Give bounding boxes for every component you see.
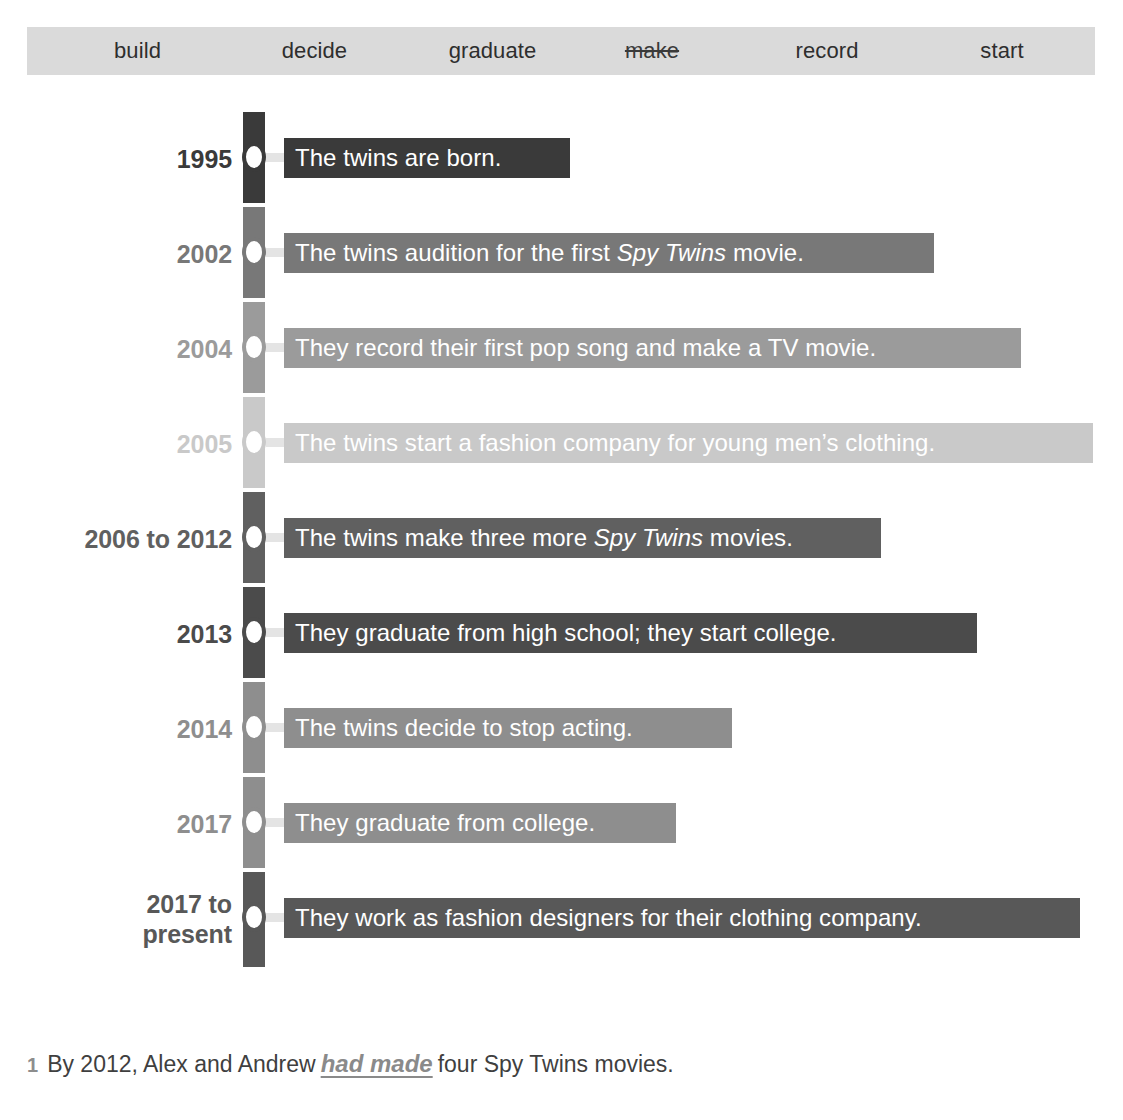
timeline-row: 2006 to 2012The twins make three more Sp… [0, 492, 1123, 587]
timeline-year-wrap: 2014 [0, 682, 232, 777]
timeline-year-wrap: 2004 [0, 302, 232, 397]
timeline-event-bar: They record their first pop song and mak… [284, 328, 1021, 368]
timeline-year-label: 2002 [45, 207, 232, 302]
timeline-connector [266, 248, 286, 257]
timeline-row: 2017They graduate from college. [0, 777, 1123, 872]
timeline-event-text: They graduate from college. [295, 811, 595, 835]
timeline-connector [266, 343, 286, 352]
question-text-after: four Spy Twins movies. [438, 1051, 674, 1078]
timeline-year-label: 2006 to 2012 [45, 492, 232, 587]
word-bank-item-make[interactable]: make [597, 40, 707, 62]
timeline-event-text: The twins audition for the first Spy Twi… [295, 241, 804, 265]
timeline-node-circle-icon [242, 142, 266, 172]
timeline-row: 1995The twins are born. [0, 112, 1123, 207]
timeline: 1995The twins are born.2002The twins aud… [0, 112, 1123, 967]
timeline-event-text: The twins make three more Spy Twins movi… [295, 526, 793, 550]
timeline-event-bar: The twins are born. [284, 138, 570, 178]
timeline-connector [266, 533, 286, 542]
timeline-row: 2005The twins start a fashion company fo… [0, 397, 1123, 492]
timeline-year-label: 2013 [45, 587, 232, 682]
timeline-connector [266, 723, 286, 732]
word-bank-item-start[interactable]: start [947, 40, 1057, 62]
timeline-connector [266, 153, 286, 162]
timeline-year-label: 2005 [45, 397, 232, 492]
question-number: 1 [27, 1054, 38, 1077]
timeline-connector [266, 818, 286, 827]
timeline-connector [266, 628, 286, 637]
word-bank-item-graduate[interactable]: graduate [425, 40, 560, 62]
timeline-row: 2013They graduate from high school; they… [0, 587, 1123, 682]
timeline-node-circle-icon [242, 522, 266, 552]
timeline-event-bar: The twins make three more Spy Twins movi… [284, 518, 881, 558]
word-bank: builddecidegraduatemakerecordstart [27, 27, 1095, 75]
timeline-year-wrap: 2017 to present [0, 872, 232, 967]
timeline-year-label: 2017 to present [45, 872, 232, 967]
timeline-year-label: 2017 [45, 777, 232, 872]
timeline-event-text: They graduate from high school; they sta… [295, 621, 837, 645]
timeline-connector [266, 913, 286, 922]
timeline-event-bar: The twins audition for the first Spy Twi… [284, 233, 934, 273]
word-bank-item-decide[interactable]: decide [257, 40, 372, 62]
timeline-event-bar: They work as fashion designers for their… [284, 898, 1080, 938]
timeline-row: 2004They record their first pop song and… [0, 302, 1123, 397]
timeline-connector [266, 438, 286, 447]
timeline-year-label: 1995 [45, 112, 232, 207]
timeline-year-wrap: 1995 [0, 112, 232, 207]
question-answer-blank[interactable]: had made [321, 1050, 433, 1078]
timeline-event-bar: The twins decide to stop acting. [284, 708, 732, 748]
timeline-event-bar: They graduate from high school; they sta… [284, 613, 977, 653]
timeline-year-wrap: 2002 [0, 207, 232, 302]
timeline-node-circle-icon [242, 237, 266, 267]
timeline-year-wrap: 2005 [0, 397, 232, 492]
timeline-event-text: They record their first pop song and mak… [295, 336, 876, 360]
timeline-year-wrap: 2006 to 2012 [0, 492, 232, 587]
timeline-event-text: The twins are born. [295, 146, 501, 170]
timeline-node-circle-icon [242, 902, 266, 932]
timeline-node-circle-icon [242, 617, 266, 647]
word-bank-item-record[interactable]: record [767, 40, 887, 62]
question-line: 1 By 2012, Alex and Andrew had made four… [27, 1050, 1097, 1090]
timeline-node-circle-icon [242, 332, 266, 362]
timeline-year-label: 2004 [45, 302, 232, 397]
timeline-event-text: They work as fashion designers for their… [295, 906, 922, 930]
timeline-event-bar: They graduate from college. [284, 803, 676, 843]
timeline-year-wrap: 2017 [0, 777, 232, 872]
question-text-before: By 2012, Alex and Andrew [47, 1051, 316, 1078]
timeline-event-text: The twins start a fashion company for yo… [295, 431, 935, 455]
timeline-year-wrap: 2013 [0, 587, 232, 682]
timeline-row: 2002The twins audition for the first Spy… [0, 207, 1123, 302]
timeline-row: 2014The twins decide to stop acting. [0, 682, 1123, 777]
timeline-event-bar: The twins start a fashion company for yo… [284, 423, 1093, 463]
timeline-node-circle-icon [242, 807, 266, 837]
timeline-node-circle-icon [242, 427, 266, 457]
timeline-node-circle-icon [242, 712, 266, 742]
timeline-row: 2017 to presentThey work as fashion desi… [0, 872, 1123, 967]
timeline-year-label: 2014 [45, 682, 232, 777]
word-bank-item-build[interactable]: build [85, 40, 190, 62]
timeline-event-text: The twins decide to stop acting. [295, 716, 633, 740]
